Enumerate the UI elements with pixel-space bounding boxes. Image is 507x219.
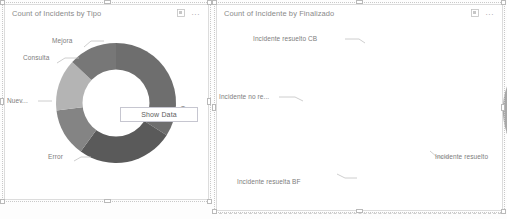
visual-container-tipo[interactable]: Count of Incidents by Tipo ... [4,4,209,200]
more-options-icon[interactable]: ... [192,10,200,16]
resize-handle-nw-2[interactable] [212,0,217,5]
data-label-consulta: Consulta [23,54,49,61]
data-label-nuevo: Nuev... [7,97,28,104]
resize-handle-se-2[interactable] [501,209,506,214]
resize-handle-e[interactable] [207,98,211,105]
data-label-incidente-resuelto: Incidente resuelto [435,153,488,160]
visual-header-actions-tipo: ... [177,9,200,17]
focus-mode-icon[interactable] [177,9,185,17]
data-label-error: Error [48,153,63,160]
resize-handle-n[interactable] [104,0,111,4]
resize-handle-n-2[interactable] [356,0,363,4]
resize-handle-ne-2[interactable] [501,0,506,5]
resize-handle-s[interactable] [104,199,111,203]
donut-hole [83,70,150,137]
canvas-bottom-divider [219,213,501,214]
more-options-icon[interactable]: ... [486,10,494,16]
resize-handle-w[interactable] [0,98,4,105]
resize-handle-sw[interactable] [0,199,5,204]
data-label-incidente-resuelto-cb: Incidente resuelto CB [253,35,317,42]
data-label-incidente-resuelta-bf: Incidente resuelta BF [237,178,301,185]
visual-header-actions-finalizado: ... [471,9,494,17]
page-title-tipo: Count of Incidents by Tipo [12,9,101,18]
visual-container-finalizado[interactable]: Count of Incidente by Finalizado ... [216,4,503,211]
resize-handle-se[interactable] [207,199,212,204]
report-canvas: Count of Incidents by Tipo ... [0,0,507,219]
resize-handle-e-2[interactable] [501,104,505,111]
donut-chart-tipo[interactable] [52,39,180,167]
data-label-incidente-no-resuelto: Incidente no re... [219,93,269,100]
donut-slices[interactable] [56,43,176,163]
focus-mode-icon[interactable] [471,9,479,17]
resize-handle-sw-2[interactable] [212,209,217,214]
data-label-mejora: Mejora [52,37,72,44]
show-data-button[interactable]: Show Data [120,107,198,122]
resize-handle-nw[interactable] [0,0,5,5]
page-title-finalizado: Count of Incidente by Finalizado [224,9,334,18]
resize-handle-w-2[interactable] [212,104,216,111]
